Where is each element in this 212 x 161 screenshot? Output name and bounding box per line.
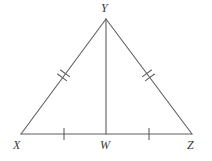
segment-yz: [106, 19, 192, 134]
vertex-label-y: Y: [101, 2, 108, 14]
vertex-label-z: Z: [187, 139, 194, 151]
vertex-label-x: X: [13, 139, 20, 151]
geometry-figure: X Y Z W: [0, 0, 212, 161]
triangle-diagram: [0, 0, 212, 161]
segment-xy: [21, 19, 106, 134]
vertex-label-w: W: [100, 139, 110, 151]
